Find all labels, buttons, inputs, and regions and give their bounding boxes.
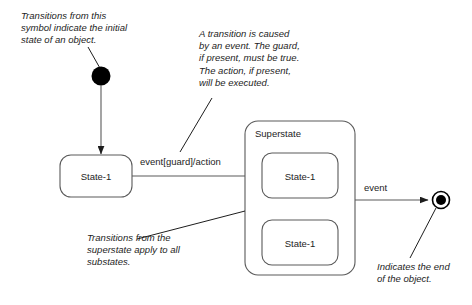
note-transition: A transition is caused by an event. The … (199, 28, 300, 89)
note-initial-state: Transitions from this symbol indicate th… (21, 10, 127, 47)
state-label-left: State-1 (60, 171, 132, 182)
initial-state-dot (92, 67, 111, 86)
uml-state-diagram: Transitions from this symbol indicate th… (0, 0, 472, 305)
transition-label-exit: event (364, 182, 387, 193)
superstate-title: Superstate (255, 128, 301, 139)
leader-line-transition-note (180, 98, 212, 152)
transition-label-entry: event[guard]/action (140, 156, 221, 167)
final-state-core (436, 195, 446, 205)
substate-label-bottom: State-1 (262, 238, 338, 249)
leader-line-final-note (410, 208, 436, 258)
substate-label-top: State-1 (262, 171, 338, 182)
note-final-state: Indicates the end of the object. (377, 261, 450, 285)
note-substates: Transitions from the superstate apply to… (87, 232, 180, 269)
leader-line-initial-note (88, 47, 101, 70)
